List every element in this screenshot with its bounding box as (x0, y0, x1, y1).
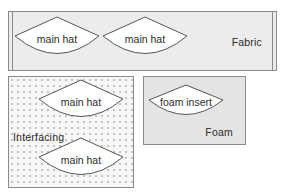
selvage-edge-right-icon (272, 12, 273, 70)
fan-shape-path (39, 138, 123, 175)
selvage-edge-left-icon (12, 12, 13, 70)
fan-shape-path (149, 85, 223, 115)
material-label-foam: Foam (205, 126, 233, 138)
pattern-piece-main-hat-interfacing-2: main hat (38, 137, 124, 187)
pattern-piece-main-hat-interfacing-1: main hat (38, 79, 124, 129)
pattern-piece-foam-insert: foam insert (148, 84, 224, 124)
fan-shape-path (103, 17, 187, 54)
pattern-piece-main-hat-fabric-1: main hat (14, 16, 100, 66)
fan-shape-path (39, 80, 123, 117)
fan-shape-path (15, 17, 99, 54)
cutting-layout-diagram: Fabric main hat main hat Interfacing mai… (0, 0, 283, 194)
pattern-piece-main-hat-fabric-2: main hat (102, 16, 188, 66)
material-label-fabric: Fabric (232, 36, 262, 48)
